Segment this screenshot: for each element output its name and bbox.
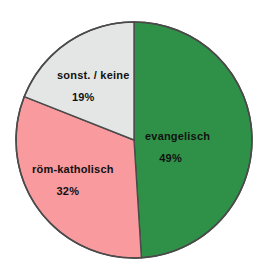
pie-label-sonst-keine-name: sonst. / keine bbox=[57, 69, 130, 82]
pie-chart-graphic bbox=[0, 0, 267, 279]
pie-label-evangelisch-name: evangelisch bbox=[145, 130, 210, 143]
pie-label-evangelisch-value: 49% bbox=[145, 152, 210, 165]
pie-label-roem-katholisch-name: röm-katholisch bbox=[32, 163, 114, 176]
pie-label-sonst-keine: sonst. / keine 19% bbox=[57, 69, 130, 104]
pie-chart: evangelisch 49% röm-katholisch 32% sonst… bbox=[0, 0, 267, 279]
pie-label-roem-katholisch-value: 32% bbox=[32, 185, 114, 198]
pie-label-evangelisch: evangelisch 49% bbox=[145, 130, 210, 165]
pie-label-sonst-keine-value: 19% bbox=[57, 91, 130, 104]
pie-label-roem-katholisch: röm-katholisch 32% bbox=[32, 163, 114, 198]
